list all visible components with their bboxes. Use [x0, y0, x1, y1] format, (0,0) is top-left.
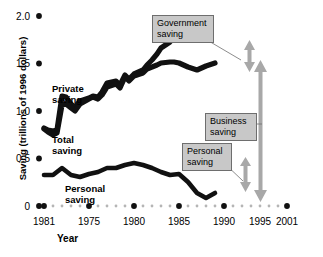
- ytick-label-2-0: 2.0: [4, 11, 30, 22]
- x-axis-title: Year: [57, 233, 78, 244]
- y-axis-ticks: [36, 13, 42, 209]
- callout-government-saving: Government saving: [152, 15, 214, 43]
- callout-personal-saving: Personal saving: [182, 143, 232, 171]
- series-label-total-saving: Total saving: [52, 135, 82, 156]
- series-label-personal-saving: Personal saving: [65, 184, 105, 205]
- xtick-label-4: 1985: [162, 216, 196, 227]
- y-axis-title: Saving (trillions of 1996 dollars): [17, 24, 28, 194]
- x-axis-minor-ticks: [52, 205, 280, 208]
- government-saving-arrow: [244, 40, 255, 72]
- saving-line-chart: 2.0 1.5 1.0 0.5 0 1981 1975 1980 1985 19…: [0, 0, 323, 257]
- xtick-label-3: 1980: [117, 216, 151, 227]
- xtick-label-2: 1975: [72, 216, 106, 227]
- personal-saving-arrow: [240, 157, 251, 192]
- xtick-label-5: 1990: [207, 216, 241, 227]
- xtick-label-7: 2001: [270, 216, 304, 227]
- series-label-private-saving: Private saving: [52, 84, 84, 105]
- ytick-label-0: 0: [4, 201, 30, 212]
- callout-business-saving: Business saving: [205, 113, 257, 141]
- xtick-label-1: 1981: [27, 216, 61, 227]
